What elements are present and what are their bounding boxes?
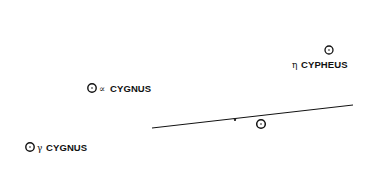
star-label: CYGNUS — [110, 83, 151, 94]
star-eta-cypheus: η CYPHEUS — [292, 46, 348, 70]
star-alpha-cygnus: ∝ CYGNUS — [88, 83, 151, 94]
star-chart-diagram: η CYPHEUS ∝ CYGNUS γ CYGNUS — [0, 0, 371, 170]
star-greek-letter: γ — [37, 143, 42, 153]
star-label: CYGNUS — [46, 142, 87, 153]
star-label: CYPHEUS — [301, 59, 348, 70]
trajectory-line — [152, 105, 353, 128]
star-greek-letter: η — [292, 60, 297, 70]
star-greek-letter: ∝ — [99, 84, 105, 94]
star-unlabeled — [257, 120, 266, 129]
star-gamma-cygnus: γ CYGNUS — [26, 142, 87, 153]
